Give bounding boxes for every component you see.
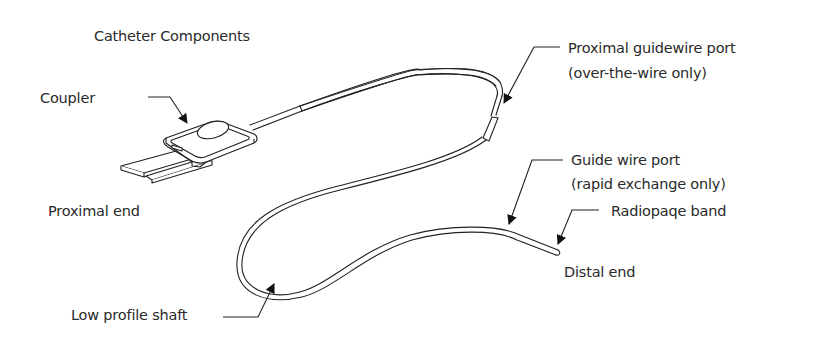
label-coupler: Coupler bbox=[40, 88, 95, 109]
label-low-profile-shaft: Low profile shaft bbox=[71, 305, 187, 326]
label-radiopaque-band: Radiopaqe band bbox=[611, 201, 726, 222]
catheter-diagram: Catheter Components Coupler Proximal end… bbox=[0, 0, 817, 341]
label-distal-end: Distal end bbox=[564, 262, 635, 283]
radiopaque-band-leader bbox=[558, 210, 599, 244]
label-proximal-guidewire-port-note: (over-the-wire only) bbox=[568, 63, 707, 84]
diagram-title: Catheter Components bbox=[94, 26, 250, 47]
label-proximal-guidewire-port: Proximal guidewire port bbox=[568, 38, 736, 59]
low-profile-shaft-leader bbox=[223, 284, 274, 317]
label-guide-wire-port: Guide wire port bbox=[571, 150, 680, 171]
label-proximal-end: Proximal end bbox=[48, 201, 140, 222]
label-guide-wire-port-note: (rapid exchange only) bbox=[571, 174, 726, 195]
coupler-leader bbox=[148, 97, 187, 123]
catheter-shaft bbox=[237, 69, 560, 300]
guide-wire-port-leader bbox=[509, 160, 563, 224]
proximal-guidewire-port-leader bbox=[504, 47, 560, 103]
coupler-connector bbox=[121, 118, 257, 183]
